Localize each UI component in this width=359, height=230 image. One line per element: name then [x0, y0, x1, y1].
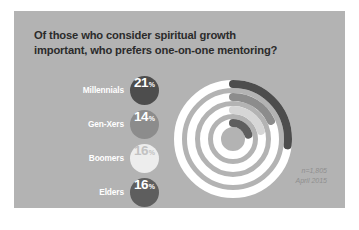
legend-row-boomers: Boomers 16 % — [34, 141, 159, 175]
percent-sign-gen-xers: % — [149, 115, 155, 122]
value-bubble-gen-xers: 14 % — [130, 110, 159, 139]
radial-ring-chart — [169, 75, 297, 203]
source-note: n=1,805 April 2015 — [295, 166, 327, 186]
legend-label-millennials: Millennials — [83, 85, 124, 95]
value-boomers: 16 — [134, 144, 148, 158]
value-gen-xers: 14 — [134, 110, 148, 124]
value-bubble-millennials: 21 % — [130, 76, 159, 105]
infographic-root: Of those who consider spiritual growth i… — [0, 0, 359, 230]
radial-ring-svg — [169, 75, 297, 203]
percent-sign-millennials: % — [149, 81, 155, 88]
value-millennials: 21 — [134, 76, 148, 90]
value-elders: 16 — [134, 178, 148, 192]
source-sample-size: n=1,805 — [295, 166, 327, 176]
legend-label-gen-xers: Gen-Xers — [88, 119, 124, 129]
legend-row-gen-xers: Gen-Xers 14 % — [34, 107, 159, 141]
page-title: Of those who consider spiritual growth i… — [34, 28, 284, 57]
source-date: April 2015 — [295, 176, 327, 186]
value-bubble-elders: 16 % — [130, 178, 159, 207]
legend-label-boomers: Boomers — [89, 153, 124, 163]
legend-label-elders: Elders — [99, 187, 124, 197]
legend-row-millennials: Millennials 21 % — [34, 73, 159, 107]
percent-sign-elders: % — [149, 183, 155, 190]
value-bubble-boomers: 16 % — [130, 144, 159, 173]
legend-row-elders: Elders 16 % — [34, 175, 159, 208]
percent-sign-boomers: % — [149, 149, 155, 156]
title-line-2: important, who prefers one-on-one mentor… — [34, 43, 284, 58]
chart-card: Of those who consider spiritual growth i… — [14, 11, 345, 208]
title-line-1: Of those who consider spiritual growth — [34, 28, 284, 43]
legend: Millennials 21 % Gen-Xers 14 % Boomers 1… — [34, 73, 159, 208]
